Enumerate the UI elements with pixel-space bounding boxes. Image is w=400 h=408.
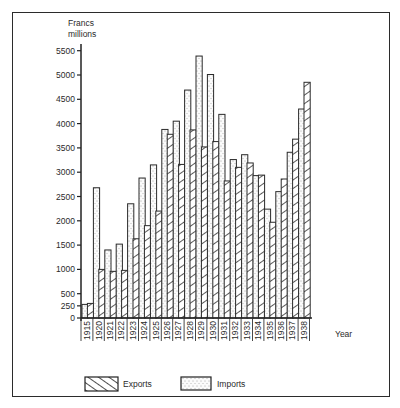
exports-bar	[179, 164, 185, 318]
legend-exports-swatch	[85, 377, 118, 391]
legend-exports-label: Exports	[123, 379, 152, 389]
y-tick-label: 2500	[56, 192, 75, 202]
y-tick-label: 3000	[56, 167, 75, 177]
legend: Exports Imports	[85, 377, 245, 391]
exports-bar	[99, 269, 105, 318]
exports-bar	[167, 134, 173, 318]
exports-bar	[87, 303, 93, 318]
y-tick-label: 500	[61, 289, 75, 299]
x-tick-label: 1929	[196, 321, 206, 340]
legend-imports-label: Imports	[217, 379, 245, 389]
x-tick-label: 1926	[162, 321, 172, 340]
x-tick-label: 1932	[230, 321, 240, 340]
x-axis-label: Year	[335, 329, 352, 339]
x-tick-label: 1937	[287, 321, 297, 340]
x-tick-label: 1920	[94, 321, 104, 340]
exports-bar	[304, 82, 310, 318]
x-tick-label: 1927	[173, 321, 183, 340]
legend-imports-swatch	[181, 377, 211, 390]
x-tick-label: 1924	[139, 321, 149, 340]
x-axis: 1915192019211922192319241925192619271928…	[81, 318, 312, 341]
x-tick-label: 1935	[265, 321, 275, 340]
exports-bar	[122, 270, 128, 318]
x-tick-label: 1923	[128, 321, 138, 340]
exports-bar	[236, 167, 242, 318]
y-axis-label-line1: Francs	[68, 18, 94, 28]
exports-bar	[133, 239, 139, 318]
exports-bar	[224, 181, 230, 318]
exports-bar	[213, 142, 219, 318]
y-tick-label: 5500	[56, 46, 75, 56]
bars	[82, 56, 310, 318]
x-tick-label: 1931	[219, 321, 229, 340]
exports-bar	[156, 211, 162, 318]
y-axis-label-line2: millions	[68, 29, 96, 39]
exports-bar	[293, 139, 299, 318]
y-tick-label: 3500	[56, 143, 75, 153]
y-tick-label: 4000	[56, 119, 75, 129]
x-tick-label: 1933	[242, 321, 252, 340]
y-tick-label: 1500	[56, 240, 75, 250]
exports-bar	[281, 179, 287, 318]
exports-bar	[110, 271, 116, 318]
y-tick-label: 1000	[56, 264, 75, 274]
x-tick-label: 1934	[253, 321, 263, 340]
bar-chart: Francs millions 025050010001500200025003…	[0, 0, 400, 408]
x-tick-label: 1921	[105, 321, 115, 340]
exports-bar	[190, 130, 196, 318]
exports-bar	[258, 175, 264, 318]
y-tick-label: 0	[70, 313, 75, 323]
x-tick-label: 1928	[185, 321, 195, 340]
x-tick-label: 1922	[116, 321, 126, 340]
x-tick-label: 1938	[299, 321, 309, 340]
exports-bar	[144, 226, 150, 318]
y-tick-label: 5000	[56, 70, 75, 80]
exports-bar	[270, 222, 276, 318]
y-tick-label: 2000	[56, 216, 75, 226]
exports-bar	[201, 147, 207, 318]
y-tick-label: 4500	[56, 94, 75, 104]
exports-bar	[247, 163, 253, 318]
y-axis: 0250500100015002000250030003500400045005…	[56, 44, 81, 323]
x-tick-label: 1936	[276, 321, 286, 340]
x-tick-label: 1930	[208, 321, 218, 340]
x-tick-label: 1925	[151, 321, 161, 340]
y-tick-label: 250	[61, 301, 75, 311]
x-tick-label: 1915	[82, 321, 92, 340]
